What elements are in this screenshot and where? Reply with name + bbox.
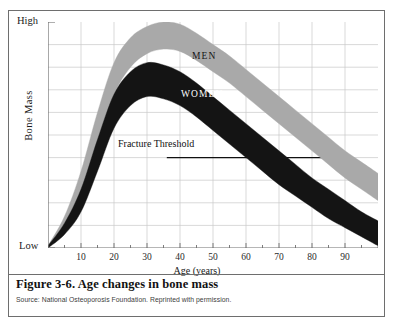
chart-plot-area: MEN WOMEN [48, 22, 378, 248]
x-axis-tick-label: 70 [267, 252, 291, 262]
x-axis-tick-label: 40 [168, 252, 192, 262]
figure-source-note: Source: National Osteoporosis Foundation… [16, 296, 231, 303]
x-axis-tick-label: 10 [69, 252, 93, 262]
x-axis-tick-label: 90 [333, 252, 357, 262]
x-axis-tick-label: 80 [300, 252, 324, 262]
figure-caption: Figure 3-6. Age changes in bone mass [16, 277, 218, 292]
y-axis-high-label: High [17, 15, 38, 26]
x-axis-tick-label: 60 [234, 252, 258, 262]
x-axis-tick-label: 30 [135, 252, 159, 262]
series-label-men: MEN [192, 51, 216, 61]
y-axis-low-label: Low [19, 240, 38, 251]
figure-root: High Low Bone Mass MEN WOMEN Fracture Th… [0, 0, 394, 328]
caption-divider [9, 274, 384, 275]
x-axis-tick-label: 50 [201, 252, 225, 262]
y-axis-title: Bone Mass [23, 71, 34, 161]
x-axis-tick-label: 20 [102, 252, 126, 262]
series-label-women: WOMEN [181, 89, 223, 99]
annotation-fracture-threshold-label: Fracture Threshold [118, 138, 194, 149]
